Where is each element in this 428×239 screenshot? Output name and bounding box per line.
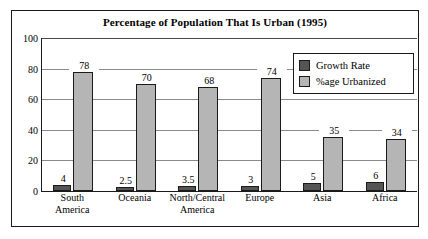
- bar-value-label: 74: [257, 66, 287, 77]
- bar-urbanized[interactable]: [261, 78, 281, 191]
- y-axis-tick-label: 40: [28, 124, 38, 135]
- bar-value-label: 35: [319, 125, 349, 136]
- legend-item-growth-rate: Growth Rate: [299, 57, 408, 73]
- bar-growth-rate[interactable]: [116, 187, 134, 191]
- bar-growth-rate[interactable]: [53, 185, 71, 191]
- chart-title: Percentage of Population That Is Urban (…: [12, 16, 418, 28]
- bar-urbanized[interactable]: [323, 137, 343, 191]
- bar-urbanized[interactable]: [386, 139, 406, 191]
- bar-group: 478: [42, 38, 105, 191]
- bar-group: 2.570: [105, 38, 168, 191]
- x-axis-label-line: America: [33, 204, 112, 216]
- chart-legend: Growth Rate %age Urbanized: [293, 53, 414, 94]
- y-axis-tick-label: 20: [28, 155, 38, 166]
- bar-group: 374: [230, 38, 293, 191]
- x-axis-labels: SouthAmericaOceaniaNorth/CentralAmericaE…: [41, 192, 416, 226]
- bar-growth-rate[interactable]: [366, 182, 384, 191]
- y-axis-tick-label: 100: [23, 33, 38, 44]
- y-axis-tick-label: 80: [28, 63, 38, 74]
- y-axis-tick-label: 60: [28, 94, 38, 105]
- bar-value-label: 70: [132, 72, 162, 83]
- bar-value-label: 78: [69, 60, 99, 71]
- x-axis-label-line: America: [158, 204, 237, 216]
- bar-urbanized[interactable]: [136, 84, 156, 191]
- chart-frame: Percentage of Population That Is Urban (…: [11, 10, 419, 227]
- legend-label-urbanized: %age Urbanized: [316, 76, 386, 87]
- legend-swatch-growth-rate-icon: [299, 60, 310, 71]
- bar-growth-rate[interactable]: [241, 186, 259, 191]
- bar-value-label: 34: [382, 127, 412, 138]
- legend-label-growth-rate: Growth Rate: [316, 60, 370, 71]
- bar-growth-rate[interactable]: [178, 186, 196, 191]
- bar-urbanized[interactable]: [198, 87, 218, 191]
- legend-swatch-urbanized-icon: [299, 76, 310, 87]
- bar-urbanized[interactable]: [73, 72, 93, 191]
- x-axis-label-line: Africa: [346, 192, 425, 204]
- x-axis-category-label: Africa: [346, 192, 425, 204]
- bar-growth-rate[interactable]: [303, 183, 321, 191]
- bar-group: 3.568: [167, 38, 230, 191]
- bar-value-label: 68: [194, 75, 224, 86]
- legend-item-urbanized: %age Urbanized: [299, 73, 408, 89]
